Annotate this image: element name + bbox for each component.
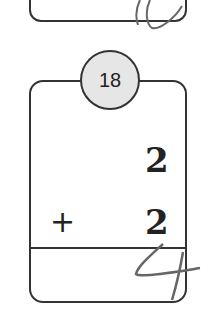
top-addend: 2: [145, 140, 169, 180]
problem-number: 18: [99, 69, 121, 92]
bottom-addend: 2: [145, 202, 169, 242]
previous-problem-card: [29, 0, 187, 22]
problem-number-badge: 18: [80, 50, 140, 110]
answer-line: [29, 247, 187, 249]
plus-sign: +: [50, 204, 75, 239]
problem-card: [29, 80, 187, 303]
